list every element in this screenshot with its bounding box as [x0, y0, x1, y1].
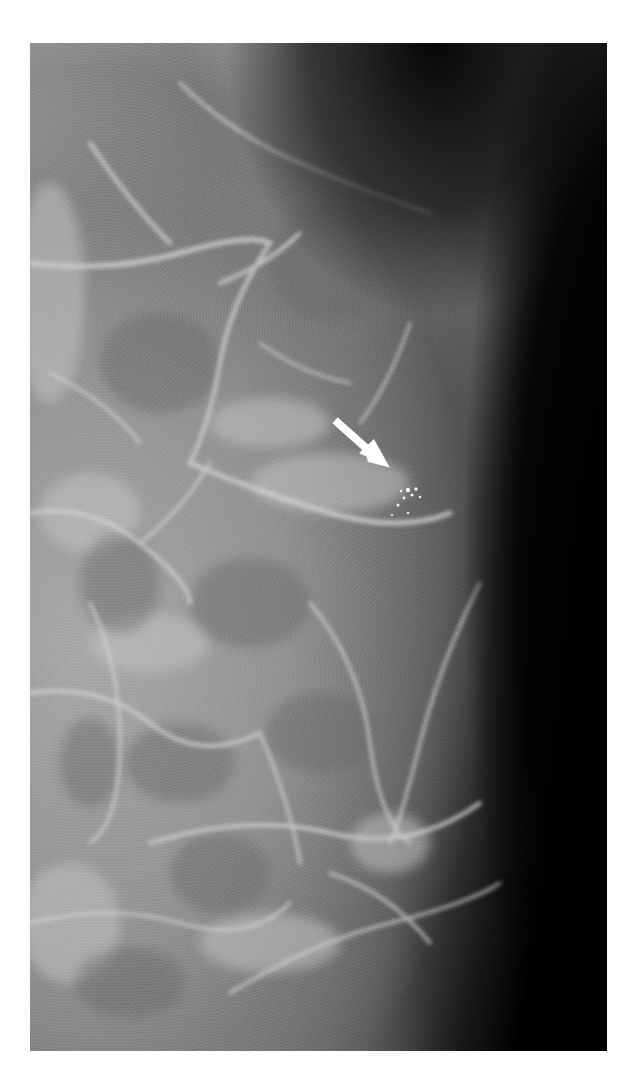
film-grain [30, 43, 607, 1051]
figure-caption [30, 1063, 607, 1079]
mammogram-figure [30, 43, 607, 1051]
